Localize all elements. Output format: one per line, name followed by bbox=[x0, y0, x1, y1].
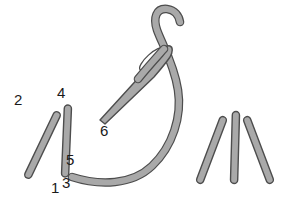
point-label-1: 1 bbox=[51, 180, 59, 195]
point-label-3: 3 bbox=[62, 175, 70, 190]
stitch-2-1 bbox=[24, 111, 62, 180]
point-label-6: 6 bbox=[100, 123, 108, 138]
stitch-right-2 bbox=[230, 111, 239, 183]
stitch-diagram: 2 4 5 1 3 6 bbox=[0, 0, 285, 222]
point-label-2: 2 bbox=[14, 92, 22, 107]
diagram-canvas bbox=[0, 0, 285, 222]
stitch-right-3 bbox=[243, 116, 275, 185]
point-label-5: 5 bbox=[66, 152, 74, 167]
point-label-4: 4 bbox=[57, 85, 65, 100]
left-stitch-group bbox=[24, 105, 72, 180]
right-stitch-group bbox=[196, 111, 275, 184]
stitch-right-1 bbox=[196, 116, 228, 185]
